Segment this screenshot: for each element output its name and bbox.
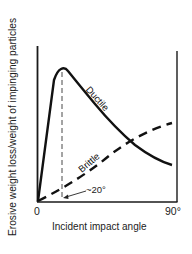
annotation-arrow-line xyxy=(66,191,86,197)
x-tick-min: 0 xyxy=(34,205,40,217)
x-tick-max: 90° xyxy=(165,205,181,217)
peak-angle-annotation: ~20° xyxy=(86,184,106,195)
x-axis-label: Incident impact angle xyxy=(52,221,147,232)
arrow-head-icon xyxy=(63,195,69,200)
ductile-curve xyxy=(38,68,172,201)
erosion-chart xyxy=(0,0,192,254)
